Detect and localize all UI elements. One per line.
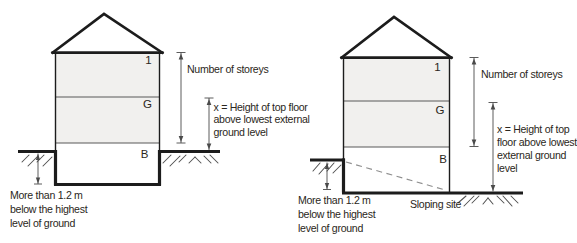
right-depth-label-line3: level of ground bbox=[298, 222, 363, 234]
left-depth-label-line2: below the highest bbox=[10, 203, 88, 215]
left-ground-hatch-left bbox=[22, 155, 52, 166]
right-depth-label-line1: More than 1.2 m bbox=[298, 194, 371, 206]
up-arrow-icon bbox=[472, 59, 477, 65]
left-floor-label-ground: G bbox=[143, 98, 152, 110]
left-floor-label-first: 1 bbox=[145, 54, 151, 66]
right-floor-label-first: 1 bbox=[434, 61, 440, 73]
right-floor-ground-fill bbox=[344, 101, 450, 147]
right-height-label: x = Height of top floor above lowest ext… bbox=[497, 123, 577, 174]
right-depth-dimension bbox=[323, 163, 331, 190]
up-arrow-icon bbox=[207, 99, 212, 105]
right-ground-hatch-low bbox=[458, 196, 518, 206]
right-height-label-line4: level bbox=[497, 162, 517, 174]
down-arrow-icon bbox=[207, 144, 212, 150]
up-arrow-icon bbox=[325, 163, 329, 169]
left-height-label-line1: x = Height of top floor bbox=[214, 101, 309, 113]
right-storeys-label: Number of storeys bbox=[481, 68, 562, 80]
left-ground-hatch-right bbox=[163, 155, 218, 166]
right-depth-label-line2: below the highest bbox=[298, 208, 376, 220]
left-storeys-label: Number of storeys bbox=[187, 63, 268, 75]
left-height-label: x = Height of top floor above lowest ext… bbox=[214, 101, 310, 138]
right-height-label-line1: x = Height of top bbox=[497, 123, 570, 135]
left-depth-label: More than 1.2 m below the highest level … bbox=[10, 189, 88, 229]
down-arrow-icon bbox=[179, 136, 184, 142]
right-roof bbox=[341, 17, 453, 59]
down-arrow-icon bbox=[472, 140, 477, 146]
left-roof bbox=[52, 14, 164, 54]
sloping-site-label: Sloping site bbox=[410, 198, 462, 210]
right-floor-label-ground: G bbox=[436, 104, 445, 116]
right-height-label-line3: external ground bbox=[497, 149, 567, 161]
right-floor-label-basement: B bbox=[439, 153, 447, 165]
down-arrow-icon bbox=[491, 185, 496, 191]
right-storeys-dimension bbox=[470, 58, 479, 147]
left-height-label-line3: ground level bbox=[214, 126, 268, 138]
right-depth-label: More than 1.2 m below the highest level … bbox=[298, 194, 376, 234]
left-depth-label-line1: More than 1.2 m bbox=[10, 189, 83, 201]
left-height-dimension bbox=[205, 98, 214, 150]
right-height-label-line2: floor above lowest bbox=[497, 136, 577, 148]
storeys-diagram-canvas: Number of storeys x = Height of top floo… bbox=[0, 0, 577, 243]
left-storeys-dimension bbox=[177, 53, 186, 144]
down-arrow-icon bbox=[325, 183, 329, 189]
up-arrow-icon bbox=[491, 104, 496, 110]
left-diagram: Number of storeys x = Height of top floo… bbox=[10, 14, 310, 229]
right-diagram: Number of storeys x = Height of top floo… bbox=[298, 17, 577, 234]
left-depth-label-line3: level of ground bbox=[10, 217, 75, 229]
down-arrow-icon bbox=[36, 178, 40, 184]
diagram-svg: Number of storeys x = Height of top floo… bbox=[0, 0, 577, 243]
right-floor-basement-fill bbox=[344, 147, 450, 193]
left-height-label-line2: above lowest external bbox=[214, 113, 310, 125]
left-floor-first-fill bbox=[56, 53, 160, 98]
left-floor-label-basement: B bbox=[141, 148, 149, 160]
up-arrow-icon bbox=[179, 54, 184, 60]
